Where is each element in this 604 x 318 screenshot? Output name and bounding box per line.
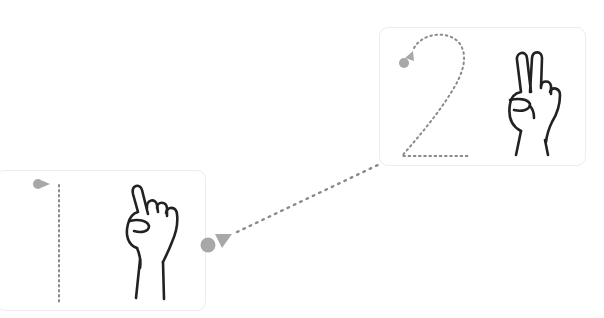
start-marker-icon (399, 51, 414, 68)
trace-number-2 (399, 35, 468, 156)
connector-arrowhead-icon (215, 234, 232, 248)
start-marker-icon (33, 179, 50, 189)
one-finger-hand-icon (127, 186, 177, 299)
worksheet-canvas (0, 0, 604, 318)
connector-start-icon (201, 238, 216, 253)
connector-arrow (201, 164, 381, 253)
two-finger-hand-icon (509, 52, 560, 155)
trace-number-1 (33, 179, 59, 302)
